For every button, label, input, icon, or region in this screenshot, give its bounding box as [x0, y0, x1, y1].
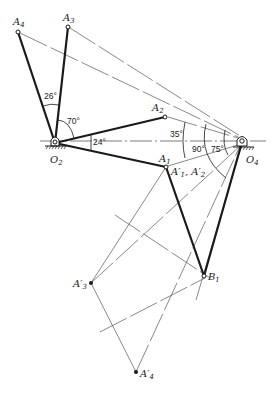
label-O4: O4: [246, 154, 259, 167]
construction-line-A4-O4: [20, 33, 240, 138]
joint-A4: [16, 30, 20, 34]
crank-link-O2-A4: [18, 32, 55, 143]
coupler-link-A1-B1: [166, 167, 204, 276]
construction-line-A3p-A4p: [91, 283, 136, 372]
construction-line-A1-A3p: [91, 167, 166, 283]
label-A2: A2: [151, 102, 164, 115]
joint-B1: [202, 274, 206, 278]
linkage-diagram: A4 A3 A2 A1 O2 O4 B1 A′1, A′2 A′3 A′4 26…: [0, 0, 273, 396]
angle-arc-75: [224, 130, 228, 155]
label-A1: A1: [158, 153, 171, 166]
label-A3: A3: [62, 12, 75, 25]
ground-pivot-O4: [233, 137, 254, 151]
angle-label-26: 26°: [44, 91, 57, 101]
point-A4-prime: [134, 370, 138, 374]
angle-label-70: 70°: [67, 116, 80, 126]
construction-line-A4p-O4: [136, 146, 240, 372]
label-A4-prime: A′4: [139, 368, 154, 381]
label-A3-prime: A′3: [72, 278, 88, 291]
angle-label-24: 24°: [93, 137, 106, 147]
label-A4: A4: [12, 16, 25, 29]
label-O2: O2: [50, 154, 63, 167]
joint-A2: [163, 115, 167, 119]
perpendicular-bisector-2: [100, 278, 205, 332]
label-B1: B1: [207, 271, 220, 284]
angle-label-75: 75°: [211, 144, 224, 154]
point-A3-prime: [89, 281, 93, 285]
label-A1-prime-A2-prime: A′1, A′2: [170, 166, 206, 179]
perpendicular-bisector-1: [115, 215, 210, 278]
joint-A3: [66, 25, 70, 29]
angle-label-35: 35°: [170, 129, 183, 139]
angle-arc-35: [183, 122, 185, 158]
angle-arc-26: [43, 104, 59, 106]
crank-link-O2-A1: [55, 143, 166, 167]
ground-pivot-O2: [45, 137, 66, 149]
angle-label-90: 90°: [192, 144, 205, 154]
